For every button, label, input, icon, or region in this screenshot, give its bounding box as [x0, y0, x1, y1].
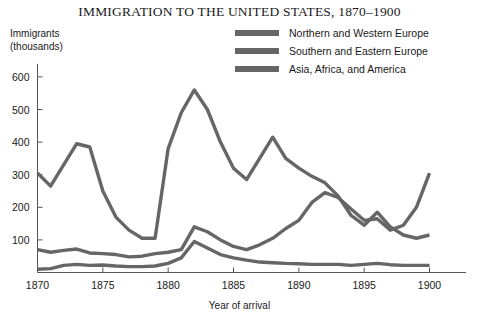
chart-plot: 100200300400500600 187018751880188518901…: [0, 0, 479, 323]
series-line-1: [38, 90, 430, 238]
series-line-2: [38, 173, 430, 257]
x-axis-ticks: 1870187518801885189018951900: [26, 268, 442, 291]
x-tick-label: 1900: [418, 279, 442, 291]
y-tick-label: 500: [12, 104, 30, 116]
x-tick-label: 1875: [91, 279, 115, 291]
y-tick-label: 300: [12, 169, 30, 181]
y-tick-label: 100: [12, 234, 30, 246]
x-axis-title: Year of arrival: [0, 300, 479, 311]
x-tick-label: 1870: [26, 279, 50, 291]
x-tick-label: 1885: [222, 279, 246, 291]
chart-page: IMMIGRATION TO THE UNITED STATES, 1870–1…: [0, 0, 479, 323]
y-tick-label: 400: [12, 136, 30, 148]
y-tick-label: 600: [12, 71, 30, 83]
x-tick-label: 1890: [287, 279, 311, 291]
x-tick-label: 1895: [352, 279, 376, 291]
x-tick-label: 1880: [156, 279, 180, 291]
series-lines: [38, 90, 430, 269]
y-tick-label: 200: [12, 201, 30, 213]
